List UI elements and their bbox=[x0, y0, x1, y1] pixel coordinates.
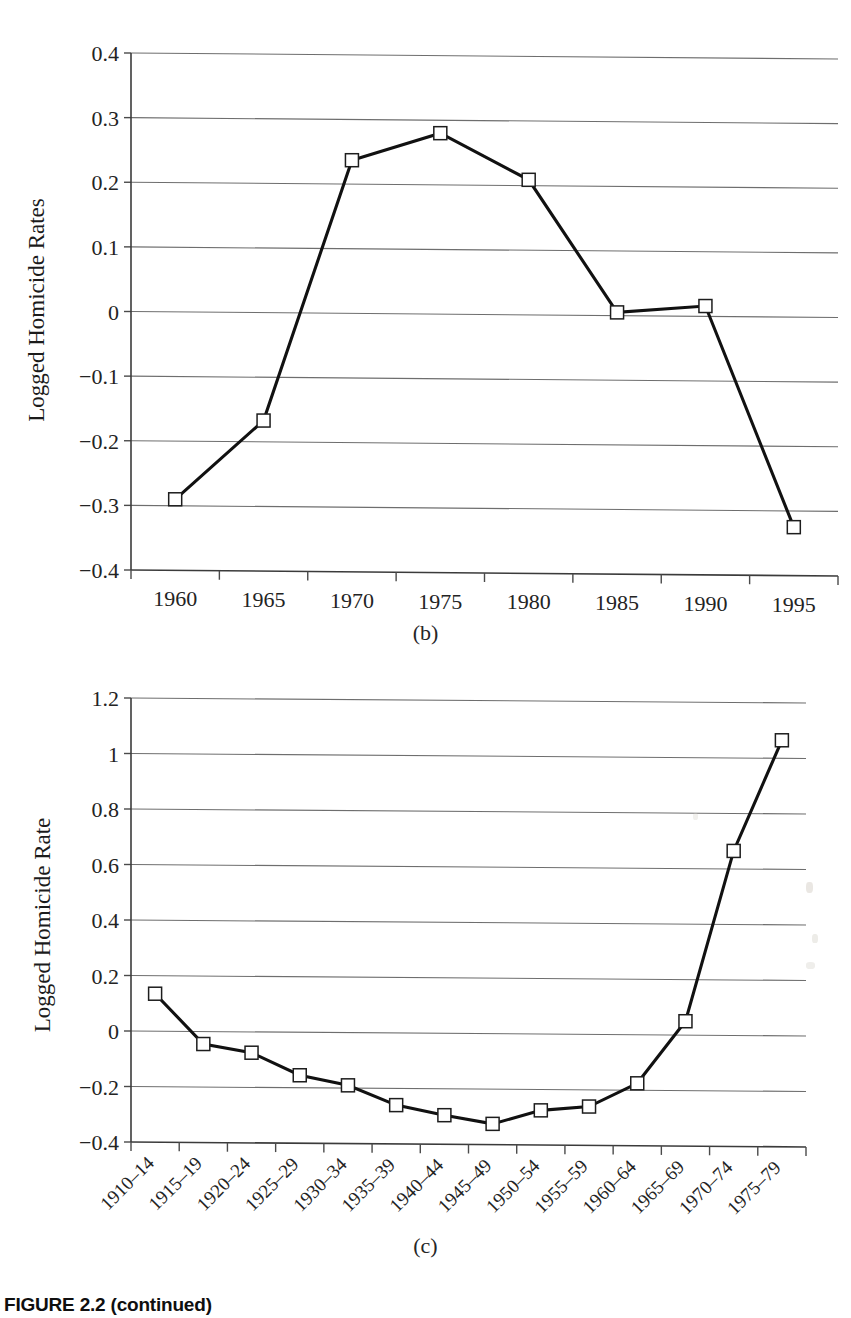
data-point-marker bbox=[341, 1079, 354, 1092]
y-tick-label: −0.1 bbox=[79, 364, 119, 389]
x-tick-label: 1985 bbox=[595, 590, 639, 615]
grid-line bbox=[131, 865, 806, 870]
data-point-marker bbox=[293, 1069, 306, 1082]
panel-c-caption: (c) bbox=[0, 1233, 851, 1259]
y-tick-label: 0.1 bbox=[92, 235, 120, 260]
grid-line bbox=[131, 182, 838, 188]
data-point-marker bbox=[522, 173, 535, 186]
x-tick-label: 1990 bbox=[683, 591, 727, 616]
grid-line bbox=[131, 1031, 806, 1036]
grid-line bbox=[131, 118, 838, 124]
y-tick-label: 0.2 bbox=[92, 170, 120, 195]
y-axis-title: Logged Homicide Rates bbox=[24, 198, 49, 422]
figure-page: 0.40.30.20.10−0.1−0.2−0.3−0.419601965197… bbox=[0, 0, 851, 1318]
grid-line bbox=[131, 247, 838, 253]
scan-speck bbox=[693, 813, 698, 820]
data-point-marker bbox=[775, 734, 788, 747]
data-point-marker bbox=[197, 1038, 210, 1051]
x-tick-label: 1995 bbox=[772, 592, 816, 617]
grid-line bbox=[131, 754, 806, 759]
x-tick-label: 1960 bbox=[153, 586, 197, 611]
y-tick-label: 0.8 bbox=[92, 797, 120, 822]
data-point-marker bbox=[611, 306, 624, 319]
data-point-marker bbox=[169, 493, 182, 506]
scan-speck bbox=[812, 934, 818, 943]
y-tick-label: 0.4 bbox=[92, 908, 120, 933]
y-tick-label: 0.6 bbox=[92, 853, 120, 878]
x-tick-label: 1970 bbox=[330, 588, 374, 613]
y-tick-label: 0 bbox=[108, 300, 119, 325]
y-tick-label: −0.2 bbox=[79, 1075, 119, 1100]
data-point-marker bbox=[679, 1015, 692, 1028]
chart-panel-c: 1.210.80.60.40.20−0.2−0.41910–141915–191… bbox=[0, 660, 851, 1260]
line-chart-c: 1.210.80.60.40.20−0.2−0.41910–141915–191… bbox=[0, 660, 851, 1260]
data-point-marker bbox=[149, 987, 162, 1000]
y-axis-title: Logged Homicide Rate bbox=[30, 818, 55, 1033]
x-tick-label: 1975 bbox=[418, 589, 462, 614]
data-point-marker bbox=[787, 521, 800, 534]
grid-line bbox=[131, 376, 838, 382]
grid-line bbox=[131, 1087, 806, 1092]
y-tick-label: 0.4 bbox=[92, 41, 120, 66]
grid-line bbox=[131, 53, 838, 59]
series-line bbox=[175, 133, 794, 527]
data-point-marker bbox=[486, 1117, 499, 1130]
data-point-marker bbox=[699, 300, 712, 313]
grid-line bbox=[131, 976, 806, 981]
data-point-marker bbox=[390, 1099, 403, 1112]
y-tick-label: 1 bbox=[108, 742, 119, 767]
grid-line bbox=[131, 312, 838, 318]
y-tick-label: −0.4 bbox=[79, 1130, 119, 1155]
x-tick-label: 1965 bbox=[242, 587, 286, 612]
scan-speck bbox=[806, 962, 815, 969]
grid-line bbox=[131, 920, 806, 925]
y-tick-label: 0.3 bbox=[92, 106, 120, 131]
data-point-marker bbox=[257, 414, 270, 427]
grid-line bbox=[131, 809, 806, 814]
panel-b-caption: (b) bbox=[0, 620, 851, 646]
y-tick-label: −0.3 bbox=[79, 493, 119, 518]
series-line bbox=[155, 740, 782, 1124]
data-point-marker bbox=[727, 844, 740, 857]
y-tick-label: −0.2 bbox=[79, 429, 119, 454]
y-tick-label: 0 bbox=[108, 1019, 119, 1044]
scan-speck bbox=[806, 882, 813, 893]
chart-panel-b: 0.40.30.20.10−0.1−0.2−0.3−0.419601965197… bbox=[0, 0, 851, 660]
y-tick-label: 0.2 bbox=[92, 964, 120, 989]
data-point-marker bbox=[434, 127, 447, 140]
y-tick-label: −0.4 bbox=[79, 558, 119, 583]
data-point-marker bbox=[534, 1104, 547, 1117]
y-tick-label: 1.2 bbox=[92, 686, 120, 711]
grid-line bbox=[131, 505, 838, 511]
figure-caption: FIGURE 2.2 (continued) bbox=[4, 1294, 212, 1316]
x-tick-label: 1980 bbox=[507, 589, 551, 614]
grid-line bbox=[131, 698, 806, 703]
x-tick-label: 1975–79 bbox=[723, 1157, 785, 1219]
data-point-marker bbox=[438, 1109, 451, 1122]
data-point-marker bbox=[631, 1077, 644, 1090]
data-point-marker bbox=[345, 154, 358, 167]
line-chart-b: 0.40.30.20.10−0.1−0.2−0.3−0.419601965197… bbox=[0, 0, 851, 660]
data-point-marker bbox=[583, 1100, 596, 1113]
data-point-marker bbox=[245, 1046, 258, 1059]
